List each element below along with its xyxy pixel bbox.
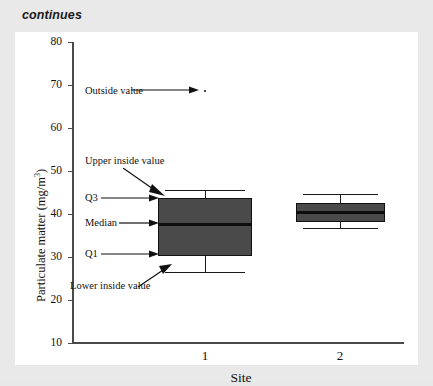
y-tick-label-80: 80: [38, 35, 62, 47]
y-tick-80: [68, 42, 73, 43]
y-tick-10: [68, 343, 73, 344]
y-tick-label-60: 60: [38, 121, 62, 133]
annotation-q3: Q3: [85, 192, 98, 203]
y-tick-30: [68, 257, 73, 258]
chart-panel: 80 70 60 50 40 30 20 10 Particulate matt…: [15, 32, 418, 365]
site1-outlier-point: [204, 90, 206, 92]
site2-upper-whisker: [340, 194, 341, 203]
y-tick-20: [68, 300, 73, 301]
y-axis-line: [72, 42, 74, 343]
y-tick-label-10: 10: [38, 336, 62, 348]
continues-band: continues: [0, 0, 433, 32]
annotation-q1: Q1: [85, 248, 98, 259]
annotation-lower-inside-value-arrow: [135, 264, 175, 290]
site2-median-line: [296, 211, 385, 214]
site1-median-line: [158, 223, 252, 226]
y-axis-title-text: Particulate matter (mg/m: [34, 177, 48, 302]
y-axis-title: Particulate matter (mg/m3): [33, 169, 49, 302]
site1-upper-cap: [165, 190, 245, 191]
y-axis-title-tail: ): [34, 169, 48, 173]
site1-box: [158, 198, 252, 256]
y-tick-label-70: 70: [38, 78, 62, 90]
site1-upper-whisker: [205, 190, 206, 198]
site2-upper-cap: [303, 194, 378, 195]
site1-lower-whisker: [205, 256, 206, 272]
y-tick-60: [68, 128, 73, 129]
continues-label: continues: [22, 8, 82, 22]
annotation-q3-arrow: [101, 192, 161, 204]
x-axis-line: [72, 342, 404, 344]
y-tick-70: [68, 85, 73, 86]
x-tick-label-site-1: 1: [190, 348, 220, 364]
y-tick-50: [68, 171, 73, 172]
annotation-upper-inside-value: Upper inside value: [85, 155, 164, 166]
y-axis-title-exponent: 3: [33, 173, 42, 177]
annotation-outside-value-arrow: [131, 84, 201, 96]
x-axis-title: Site: [211, 370, 271, 386]
annotation-q1-arrow: [101, 248, 161, 260]
annotation-median: Median: [85, 217, 117, 228]
annotation-median-arrow: [119, 217, 161, 229]
y-tick-40: [68, 214, 73, 215]
x-tick-label-site-2: 2: [325, 348, 355, 364]
site1-lower-cap: [165, 272, 245, 273]
site2-lower-cap: [303, 228, 378, 229]
